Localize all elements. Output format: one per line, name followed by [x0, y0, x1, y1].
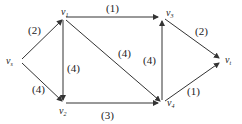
node-v1: v1 [61, 6, 68, 18]
edge-v3-vt [165, 19, 219, 58]
weight-v1-v3: (1) [106, 2, 119, 15]
weight-v2-v4: (3) [101, 109, 114, 122]
weight-v4-v3: (4) [143, 54, 156, 67]
network-diagram: (2) (4) (1) (4) (4) (3) (4) (2) (1) vs v… [0, 0, 242, 124]
node-vs: vs [6, 55, 13, 67]
edge-vs-v2 [22, 63, 62, 101]
weight-v1-v4: (4) [118, 47, 131, 60]
node-v2: v2 [59, 105, 66, 117]
weight-v3-vt: (2) [195, 25, 208, 38]
weight-v1-v2: (4) [67, 62, 80, 75]
node-v4: v4 [167, 97, 174, 109]
node-v3: v3 [166, 7, 173, 19]
weight-vs-v1: (2) [28, 24, 41, 37]
weight-v4-vt: (1) [187, 85, 200, 98]
node-vt: vt [225, 54, 231, 66]
weight-vs-v2: (4) [32, 83, 45, 96]
